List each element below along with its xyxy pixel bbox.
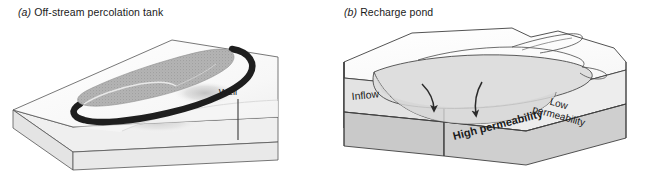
well-label: Well	[219, 86, 237, 97]
panel-recharge-pond: (b) Recharge pond	[326, 0, 656, 188]
panel-b-drawing: Inflow Low permeability High permeabilit…	[326, 0, 656, 188]
panel-off-stream-percolation-tank: (a) Off-stream percolation tank	[0, 0, 330, 188]
panel-a-drawing: Well	[0, 0, 330, 188]
figure-root: (a) Off-stream percolation tank	[0, 0, 656, 188]
